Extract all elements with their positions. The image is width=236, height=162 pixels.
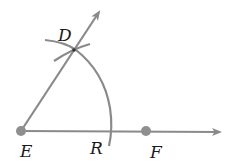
point-e xyxy=(16,126,26,136)
label-e: E xyxy=(19,141,33,161)
label-r: R xyxy=(89,138,103,158)
geometry-diagram: D E R F xyxy=(0,0,236,162)
label-f: F xyxy=(149,142,163,162)
ray-ef xyxy=(21,131,220,132)
point-f xyxy=(141,126,151,136)
intersection-point-d xyxy=(72,48,76,52)
label-d: D xyxy=(57,25,72,45)
